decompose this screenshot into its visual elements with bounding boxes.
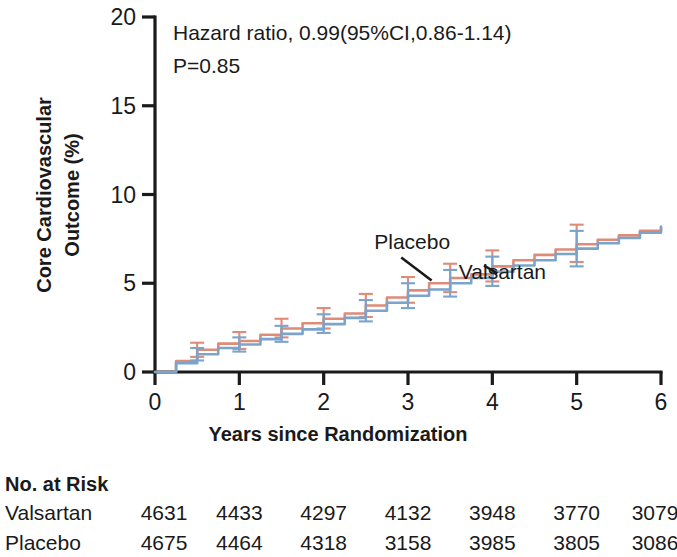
risk-cell: 3086 (632, 531, 677, 554)
risk-row-label: Valsartan (5, 501, 92, 524)
x-tick-group: 0123456 (149, 372, 668, 415)
risk-cell: 4464 (216, 531, 263, 554)
x-tick-label: 1 (233, 389, 246, 415)
placebo-curve-label: Placebo (374, 230, 450, 253)
risk-table-row: Valsartan4631443342974132394837703079 (5, 501, 677, 524)
x-tick-label: 2 (317, 389, 330, 415)
y-tick-label: 20 (110, 4, 136, 30)
p-value-annotation: P=0.85 (173, 54, 240, 77)
risk-cell: 3158 (385, 531, 432, 554)
risk-cell: 4318 (300, 531, 347, 554)
kaplan-meier-figure: 05101520 0123456 Core Cardiovascular Out… (0, 0, 677, 557)
risk-cell: 3985 (469, 531, 516, 554)
chart-canvas: 05101520 0123456 Core Cardiovascular Out… (0, 0, 677, 557)
risk-cell: 3079 (632, 501, 677, 524)
valsartan-curve-label: Valsartan (459, 260, 546, 283)
risk-cell: 3770 (553, 501, 600, 524)
risk-cell: 4433 (216, 501, 263, 524)
y-axis-title-line-1: Core Cardiovascular (33, 97, 55, 293)
x-tick-label: 6 (655, 389, 668, 415)
risk-cell: 3948 (469, 501, 516, 524)
risk-cell: 4297 (300, 501, 347, 524)
x-tick-label: 3 (402, 389, 415, 415)
y-tick-label: 0 (123, 359, 136, 385)
x-axis: 0123456 (149, 372, 668, 415)
risk-cell: 4132 (385, 501, 432, 524)
y-tick-label: 15 (110, 93, 136, 119)
y-tick-group: 05101520 (110, 4, 155, 385)
y-axis-title-line-2: Outcome (%) (61, 133, 83, 256)
risk-table-row: Placebo4675446443183158398538053086 (5, 531, 677, 554)
risk-table: Valsartan4631443342974132394837703079Pla… (5, 501, 677, 554)
hazard-ratio-annotation: Hazard ratio, 0.99(95%CI,0.86-1.14) (173, 21, 512, 44)
risk-cell: 4631 (141, 501, 188, 524)
x-tick-label: 0 (149, 389, 162, 415)
risk-cell: 3805 (553, 531, 600, 554)
risk-row-label: Placebo (5, 531, 81, 554)
x-tick-label: 5 (570, 389, 583, 415)
x-tick-label: 4 (486, 389, 499, 415)
risk-cell: 4675 (141, 531, 188, 554)
y-tick-label: 10 (110, 182, 136, 208)
y-axis: 05101520 (110, 4, 155, 385)
x-axis-title: Years since Randomization (209, 423, 468, 445)
risk-table-heading: No. at Risk (5, 473, 109, 495)
y-tick-label: 5 (123, 270, 136, 296)
